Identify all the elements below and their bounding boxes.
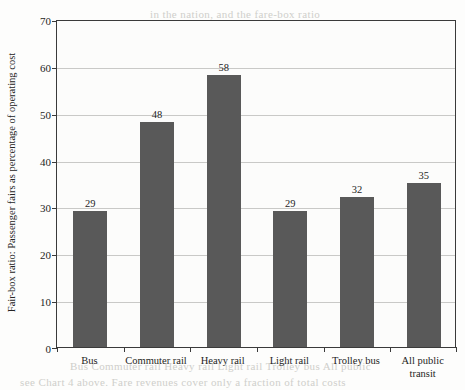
plot-area: 010203040506070294858293235 bbox=[56, 20, 456, 348]
bar-value-label: 29 bbox=[85, 198, 96, 209]
y-tick-mark bbox=[52, 115, 57, 116]
x-tick-mark bbox=[324, 347, 325, 352]
y-axis-title: Fair-box ratio: Passenger fairs as perce… bbox=[6, 15, 17, 351]
gridline bbox=[57, 302, 455, 303]
y-tick-label: 40 bbox=[40, 156, 51, 168]
gridline bbox=[57, 162, 455, 163]
y-tick-mark bbox=[52, 208, 57, 209]
y-tick-label: 10 bbox=[40, 296, 51, 308]
bar-value-label: 48 bbox=[152, 109, 163, 120]
x-tick-mark bbox=[57, 347, 58, 352]
x-tick-mark bbox=[257, 347, 258, 352]
y-tick-mark bbox=[52, 302, 57, 303]
bleed-text-line: see Chart 4 above. Fare revenues cover o… bbox=[20, 376, 346, 388]
x-axis-label: Heavy rail bbox=[189, 354, 256, 367]
y-tick-mark bbox=[52, 162, 57, 163]
gridline bbox=[57, 68, 455, 69]
x-tick-mark bbox=[124, 347, 125, 352]
y-tick-label: 30 bbox=[40, 202, 51, 214]
gridline bbox=[57, 208, 455, 209]
bar-value-label: 32 bbox=[352, 184, 363, 195]
bar[interactable]: 29 bbox=[273, 211, 307, 347]
x-tick-mark bbox=[190, 347, 191, 352]
x-axis-label: Bus bbox=[56, 354, 123, 367]
y-tick-label: 50 bbox=[40, 109, 51, 121]
y-tick-label: 70 bbox=[40, 15, 51, 27]
bar[interactable]: 29 bbox=[73, 211, 107, 347]
bar[interactable]: 32 bbox=[340, 197, 374, 347]
chart-screenshot: in the nation, and the fare-box ratio nu… bbox=[0, 0, 465, 390]
bar-value-label: 58 bbox=[218, 62, 229, 73]
x-axis-label: Commuter rail bbox=[123, 354, 190, 367]
y-tick-label: 20 bbox=[40, 249, 51, 261]
bar[interactable]: 48 bbox=[140, 122, 174, 347]
y-tick-mark bbox=[52, 21, 57, 22]
x-tick-mark bbox=[390, 347, 391, 352]
x-tick-mark bbox=[456, 347, 457, 352]
bleed-text-line: in the nation, and the fare-box ratio bbox=[150, 8, 320, 20]
x-axis-label: Trolley bus bbox=[323, 354, 390, 367]
bar[interactable]: 35 bbox=[407, 183, 441, 347]
bar[interactable]: 58 bbox=[207, 75, 241, 347]
bar-value-label: 29 bbox=[285, 198, 296, 209]
x-axis-label: Light rail bbox=[256, 354, 323, 367]
x-axis-label: All public transit bbox=[389, 354, 456, 380]
y-tick-label: 0 bbox=[46, 343, 52, 355]
gridline bbox=[57, 115, 455, 116]
y-tick-mark bbox=[52, 255, 57, 256]
bar-value-label: 35 bbox=[418, 170, 429, 181]
gridline bbox=[57, 255, 455, 256]
y-tick-label: 60 bbox=[40, 62, 51, 74]
y-tick-mark bbox=[52, 68, 57, 69]
